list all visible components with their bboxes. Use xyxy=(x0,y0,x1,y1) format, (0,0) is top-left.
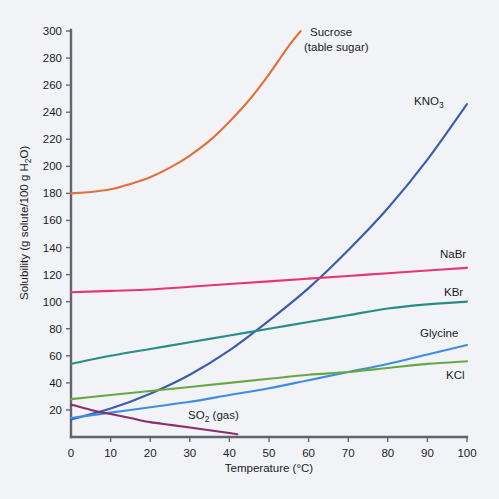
x-tick-label-70: 70 xyxy=(342,447,355,459)
series-label-glycine: Glycine xyxy=(420,327,458,339)
y-tick-label-160: 160 xyxy=(43,214,62,226)
y-tick-label-300: 300 xyxy=(43,25,62,37)
x-tick-label-90: 90 xyxy=(421,447,434,459)
x-tick-label-30: 30 xyxy=(183,447,196,459)
y-tick-label-40: 40 xyxy=(49,377,62,389)
y-tick-label-60: 60 xyxy=(49,350,62,362)
y-tick-label-200: 200 xyxy=(43,160,62,172)
x-tick-label-10: 10 xyxy=(104,447,117,459)
y-tick-label-180: 180 xyxy=(43,187,62,199)
series-label-nabr: NaBr xyxy=(440,248,466,260)
y-tick-label-260: 260 xyxy=(43,79,62,91)
series-label-sucrose-line1: Sucrose xyxy=(310,26,352,38)
y-tick-label-140: 140 xyxy=(43,242,62,254)
series-label-kcl: KCl xyxy=(446,369,465,381)
x-tick-label-100: 100 xyxy=(457,447,476,459)
chart-background xyxy=(0,0,499,499)
solubility-curves-chart: 2040608010012014016018020022024026028030… xyxy=(0,0,499,499)
y-tick-label-120: 120 xyxy=(43,269,62,281)
series-label-sucrose-line2: (table sugar) xyxy=(304,41,369,53)
x-tick-label-0: 0 xyxy=(68,447,74,459)
x-tick-label-60: 60 xyxy=(302,447,315,459)
y-tick-label-220: 220 xyxy=(43,133,62,145)
x-tick-label-40: 40 xyxy=(223,447,236,459)
x-tick-label-50: 50 xyxy=(263,447,276,459)
series-label-kbr: KBr xyxy=(444,286,463,298)
x-axis-title: Temperature (°C) xyxy=(225,462,313,474)
y-tick-label-100: 100 xyxy=(43,296,62,308)
x-tick-label-20: 20 xyxy=(144,447,157,459)
y-tick-label-80: 80 xyxy=(49,323,62,335)
x-tick-label-80: 80 xyxy=(381,447,394,459)
y-tick-label-240: 240 xyxy=(43,106,62,118)
y-tick-label-20: 20 xyxy=(49,404,62,416)
solubility-chart-figure: 2040608010012014016018020022024026028030… xyxy=(0,0,499,499)
y-tick-label-280: 280 xyxy=(43,52,62,64)
